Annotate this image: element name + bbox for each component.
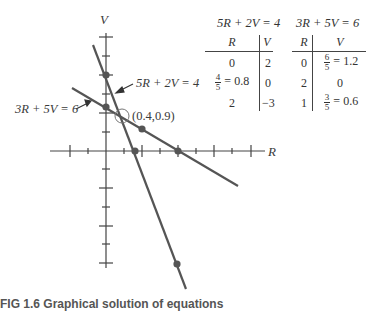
table-title: 3R + 5V = 6: [296, 16, 359, 31]
table-cell: 2: [262, 56, 274, 71]
table-cell: 2: [297, 76, 311, 91]
line-3r-5v-6: [72, 88, 238, 186]
table-header-r: R: [224, 35, 240, 50]
line1-label: 5R + 2V = 4: [136, 76, 199, 91]
table-cell: 45 = 0.8: [208, 73, 256, 92]
table-header-v: V: [330, 35, 350, 50]
r-axis: [50, 145, 265, 157]
line2-label: 3R + 5V = 6: [15, 102, 78, 117]
table-cell: 35 = 0.6: [316, 93, 366, 112]
figure-caption: FIG 1.6 Graphical solution of equations: [0, 297, 223, 311]
table-divider: [312, 35, 313, 111]
table-cell: 2: [224, 96, 240, 111]
table-header-v: V: [260, 35, 274, 50]
table-cell: 65 = 1.2: [316, 53, 366, 72]
table-cell: 0: [262, 76, 274, 91]
table-rule: [292, 51, 366, 52]
table-cell: 1: [297, 96, 311, 111]
table-title: 5R + 2V = 4: [217, 16, 280, 31]
v-axis-label: V: [100, 12, 108, 28]
r-axis-label: R: [268, 144, 276, 160]
table-cell: 0: [297, 56, 311, 71]
table-cell: 0: [330, 76, 350, 91]
table-cell: −3: [262, 96, 274, 111]
intersection-label: (0.4,0.9): [132, 109, 175, 124]
table-divider: [259, 35, 260, 111]
table-header-r: R: [297, 35, 311, 50]
table-rule: [205, 51, 273, 52]
table-cell: 0: [224, 56, 240, 71]
